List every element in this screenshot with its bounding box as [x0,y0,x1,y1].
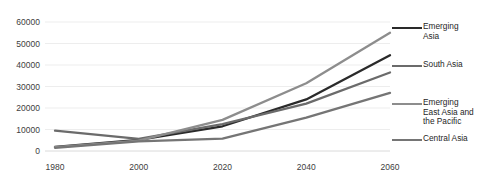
x-axis-tick-label: 2040 [297,162,316,172]
legend-label: Central Asia [423,134,468,144]
legend-item[interactable]: Central Asia [392,134,468,144]
legend-item[interactable]: South Asia [392,60,463,70]
series-lines [55,33,390,148]
legend-label: Emerging East Asia and the Pacific [423,98,474,127]
legend-color-swatch [392,139,422,142]
legend-item[interactable]: Emerging Asia [392,22,459,41]
legend-item[interactable]: Emerging East Asia and the Pacific [392,98,474,127]
x-axis-tick-label: 1980 [46,162,65,172]
legend-color-swatch [392,27,422,30]
legend-label: Emerging Asia [423,22,459,41]
y-axis-tick-label: 10000 [16,125,40,135]
legend-color-swatch [392,103,422,106]
legend-label: South Asia [423,60,463,70]
legend-color-swatch [392,65,422,68]
y-axis-tick-label: 20000 [16,103,40,113]
x-axis-tick-label: 2020 [213,162,232,172]
x-axis-tick-labels: 19802000202020402060 [46,162,400,172]
y-axis-tick-labels: 0100002000030000400005000060000 [16,17,40,156]
x-axis-tick-label: 2000 [129,162,148,172]
y-axis-tick-label: 60000 [16,17,40,27]
y-axis-tick-label: 0 [35,146,40,156]
line-chart: 0100002000030000400005000060000 19802000… [0,0,490,185]
y-axis-tick-label: 40000 [16,60,40,70]
y-axis-tick-label: 30000 [16,82,40,92]
series-line [55,33,390,147]
y-axis-tick-label: 50000 [16,39,40,49]
gridlines [45,22,390,151]
x-axis-tick-label: 2060 [381,162,400,172]
series-line [55,55,390,147]
